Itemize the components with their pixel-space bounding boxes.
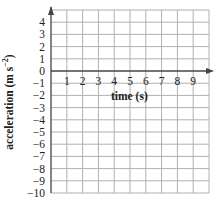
y-axis-label-exponent: −2 [1,58,10,67]
y-axis-label-close: ) [3,54,15,58]
y-tick-label: −4 [33,114,45,126]
y-axis-label-container: acceleration (m s−2) [0,10,16,193]
y-tick-label: 2 [39,41,45,53]
x-axis-label: time (s) [111,90,148,102]
x-axis-arrow-icon [206,68,214,74]
x-tick-label: 5 [127,75,133,87]
y-tick-label: −5 [33,126,45,138]
x-tick-label: 2 [80,75,86,87]
y-tick-label: −8 [33,163,45,175]
y-tick-label: −7 [33,150,45,162]
y-tick-label: 4 [39,16,45,28]
y-tick-label: 3 [39,28,45,40]
y-tick-label: −6 [33,138,45,150]
x-tick-label: 8 [175,75,181,87]
x-tick-label: 3 [96,75,102,87]
y-tick-label: −9 [33,175,45,187]
y-tick-label: 0 [39,65,45,77]
y-tick-label: −2 [33,89,45,101]
chart-canvas: 43210−1−2−3−4−5−6−7−8−9−10123456789 [0,0,218,207]
x-tick-label: 4 [111,75,117,87]
x-tick-label: 1 [64,75,70,87]
y-tick-label: −10 [27,187,45,199]
x-tick-label: 9 [190,75,196,87]
x-tick-label: 7 [159,75,165,87]
y-tick-label: −1 [33,77,45,89]
y-axis-label: acceleration (m s−2) [1,54,15,149]
y-tick-label: −3 [33,102,45,114]
y-axis-label-text: acceleration (m s [3,66,15,149]
x-tick-label: 6 [143,75,149,87]
y-tick-label: 1 [39,53,45,65]
